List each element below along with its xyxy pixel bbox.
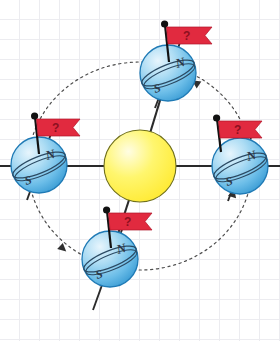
orbit-arrow-lower-left-icon bbox=[57, 243, 69, 255]
earth-globe-right[interactable]: N S ? bbox=[211, 114, 270, 201]
flag-pole-knob-bottom bbox=[103, 206, 110, 213]
seasons-diagram-illustration: N S ? N S ? bbox=[0, 0, 280, 341]
flag-question-label-bottom: ? bbox=[124, 215, 131, 229]
diagram-canvas: N S ? N S ? bbox=[0, 0, 280, 341]
earth-globe-left[interactable]: N S ? bbox=[10, 112, 80, 200]
flag-question-label-left: ? bbox=[52, 121, 59, 135]
flag-pole-knob-top bbox=[161, 20, 168, 27]
flag-pole-knob-right bbox=[213, 114, 220, 121]
flag-pole-knob-left bbox=[31, 112, 38, 119]
flag-question-label-right: ? bbox=[234, 123, 241, 137]
sun bbox=[104, 130, 176, 202]
earth-globe-bottom[interactable]: N S ? bbox=[81, 206, 152, 310]
earth-globe-top[interactable]: N S ? bbox=[139, 20, 212, 108]
flag-question-label-top: ? bbox=[183, 29, 190, 43]
